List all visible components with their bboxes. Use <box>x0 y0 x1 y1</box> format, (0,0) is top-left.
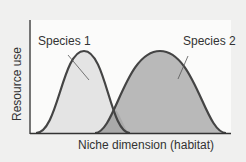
species-1-label: Species 1 <box>38 34 91 48</box>
species-2-label: Species 2 <box>183 34 236 48</box>
y-axis-label: Resource use <box>10 39 24 129</box>
x-axis-label: Niche dimension (habitat) <box>78 138 214 152</box>
